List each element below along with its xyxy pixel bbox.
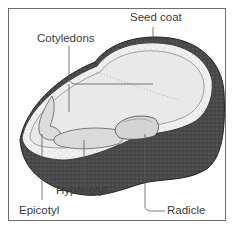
seed-coat-label: Seed coat	[130, 12, 182, 24]
epicotyl-label: Epicotyl	[19, 205, 59, 217]
seed-illustration	[0, 0, 236, 230]
radicle-label: Radicle	[167, 205, 205, 217]
hypocotyl-label: Hypocotyl	[56, 185, 107, 197]
cotyledons-label: Cotyledons	[37, 33, 95, 45]
